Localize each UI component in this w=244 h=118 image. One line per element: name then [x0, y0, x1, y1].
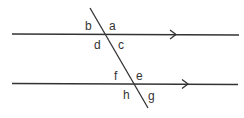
angle-label-h: h — [123, 88, 130, 102]
bottom-parallel-line — [12, 84, 238, 85]
angle-label-e: e — [136, 69, 143, 83]
angle-label-f: f — [114, 69, 118, 83]
angle-label-b: b — [85, 19, 92, 33]
top-parallel-line — [12, 34, 239, 35]
angle-label-a: a — [109, 19, 116, 33]
angle-label-g: g — [148, 89, 155, 103]
angle-label-d: d — [94, 38, 101, 52]
angle-label-c: c — [118, 38, 124, 52]
transversal-line — [90, 8, 148, 108]
parallel-lines-diagram: b a d c f e h g — [0, 0, 244, 118]
